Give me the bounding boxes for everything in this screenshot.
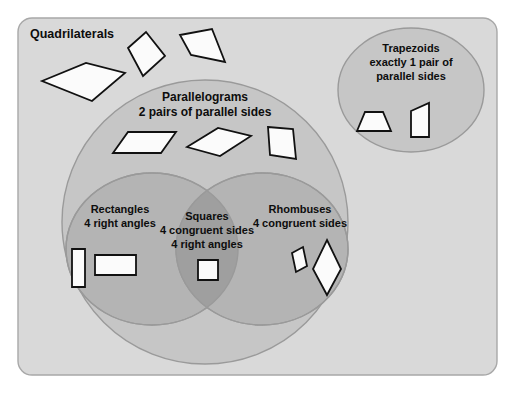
diagram-canvas: Quadrilaterals Parallelograms 2 pairs of…: [0, 0, 515, 402]
label-parallelograms-line1: Parallelograms: [162, 90, 248, 104]
example-shape-rectangle-horizontal: [95, 255, 136, 275]
label-trapezoids-line1: Trapezoids: [382, 42, 439, 54]
label-rhombuses-line1: Rhombuses: [269, 203, 332, 215]
example-shape-square: [198, 260, 218, 280]
label-trapezoids-line3: parallel sides: [376, 70, 446, 82]
label-quadrilaterals: Quadrilaterals: [30, 27, 114, 41]
label-squares-line3: 4 right angles: [171, 238, 243, 250]
quadrilateral-venn-diagram: Quadrilaterals Parallelograms 2 pairs of…: [0, 0, 515, 402]
label-rectangles-line2: 4 right angles: [84, 217, 156, 229]
label-rhombuses-line2: 4 congruent sides: [253, 217, 347, 229]
label-squares-line2: 4 congruent sides: [160, 224, 254, 236]
label-parallelograms-line2: 2 pairs of parallel sides: [139, 105, 272, 119]
label-squares-line1: Squares: [185, 210, 228, 222]
label-trapezoids-line2: exactly 1 pair of: [369, 56, 452, 68]
label-rectangles-line1: Rectangles: [91, 203, 150, 215]
example-shape-rectangle-vertical: [72, 249, 85, 287]
example-shape-parallelogram-upright: [268, 127, 296, 159]
